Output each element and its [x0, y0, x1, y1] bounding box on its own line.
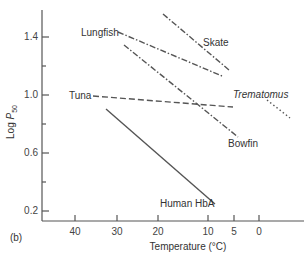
trematomus-line — [267, 100, 290, 118]
x-tick-40: 40 — [69, 226, 81, 237]
series-labels: Skate Lungfish Bowfin Tuna Trematomus Hu… — [69, 27, 288, 209]
lungfish-label: Lungfish — [81, 27, 119, 38]
y-tick-0.2: 0.2 — [24, 205, 38, 216]
human-hba-label: Human HbA — [160, 198, 215, 209]
oxygen-affinity-chart: 1.4 1.0 0.6 0.2 40 30 20 10 5 0 Temperat… — [0, 0, 304, 253]
x-tick-0: 0 — [256, 226, 262, 237]
x-tick-5: 5 — [231, 226, 237, 237]
x-tick-labels: 40 30 20 10 5 0 — [69, 226, 262, 237]
y-tick-1.0: 1.0 — [24, 89, 38, 100]
x-tick-30: 30 — [111, 226, 123, 237]
human-hba-line — [106, 109, 215, 204]
tuna-label: Tuna — [69, 90, 92, 101]
y-tick-0.6: 0.6 — [24, 147, 38, 158]
x-tick-10: 10 — [202, 226, 214, 237]
y-tick-labels: 1.4 1.0 0.6 0.2 — [24, 31, 38, 216]
tuna-line — [93, 96, 233, 107]
y-tick-1.4: 1.4 — [24, 31, 38, 42]
x-axis-title: Temperature (°C) — [150, 241, 227, 252]
y-axis-title: Log P50 — [5, 105, 18, 139]
series-lines — [93, 14, 290, 204]
panel-label: (b) — [10, 232, 22, 243]
bowfin-label: Bowfin — [228, 138, 258, 149]
x-tick-20: 20 — [152, 226, 164, 237]
trematomus-label: Trematomus — [233, 89, 288, 100]
y-axis — [42, 10, 49, 221]
skate-label: Skate — [203, 37, 229, 48]
bowfin-line — [124, 45, 238, 137]
x-axis — [42, 215, 304, 221]
